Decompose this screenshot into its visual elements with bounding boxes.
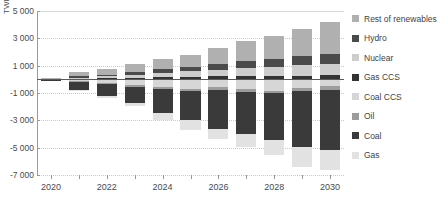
y-axis-tick-label: 1 000	[0, 61, 34, 71]
y-axis-tick-mark	[37, 93, 40, 94]
legend-item-label: Oil	[364, 112, 374, 121]
y-axis-tick-label: 3 000	[0, 33, 34, 43]
x-axis-tick-label: 2028	[264, 182, 284, 192]
legend-swatch-icon	[352, 54, 359, 61]
x-axis-tick-mark	[163, 175, 164, 179]
legend-swatch-icon	[352, 93, 359, 100]
legend-item[interactable]: Coal CCS	[352, 87, 446, 107]
legend-item-label: Coal	[364, 132, 381, 141]
legend-swatch-icon	[352, 113, 359, 120]
legend-item[interactable]: Gas	[352, 146, 446, 166]
y-axis-tick-label: 5 000	[0, 6, 34, 16]
legend-swatch-icon	[352, 152, 359, 159]
legend-swatch-icon	[352, 35, 359, 42]
x-axis-tick-label: 2026	[208, 182, 228, 192]
x-axis-tick-label: 2020	[41, 182, 61, 192]
y-axis-tick-mark	[37, 66, 40, 67]
stacked-bar-chart: TWh 5 0003 0001 000-1 000-3 000-5 000-7 …	[0, 0, 448, 206]
legend-item[interactable]: Coal	[352, 126, 446, 146]
y-axis-tick-label: -1 000	[0, 88, 34, 98]
y-axis-tick-mark	[37, 11, 40, 12]
x-axis-tick-label: 2024	[153, 182, 173, 192]
x-axis-tick-mark	[107, 175, 108, 179]
legend-item[interactable]: Rest of renewables	[352, 9, 446, 29]
chart-legend: Rest of renewablesHydroNuclearGas CCSCoa…	[352, 9, 446, 165]
y-axis-tick-label: -7 000	[0, 170, 34, 180]
zero-line-layer	[37, 11, 344, 175]
legend-swatch-icon	[352, 74, 359, 81]
legend-item[interactable]: Oil	[352, 107, 446, 127]
zero-line	[37, 79, 344, 80]
legend-item-label: Coal CCS	[364, 93, 402, 102]
x-axis-tick-mark	[302, 175, 303, 179]
legend-item-label: Gas CCS	[364, 73, 400, 82]
x-axis-tick-mark	[330, 175, 331, 179]
y-axis-tick-label: -3 000	[0, 115, 34, 125]
x-axis-tick-mark	[218, 175, 219, 179]
legend-item-label: Nuclear	[364, 54, 393, 63]
y-axis-tick-mark	[37, 38, 40, 39]
x-axis-ticks	[37, 175, 344, 181]
x-axis-tick-mark	[274, 175, 275, 179]
legend-item[interactable]: Hydro	[352, 29, 446, 49]
x-axis-tick-mark	[191, 175, 192, 179]
x-axis-tick-mark	[135, 175, 136, 179]
y-axis-tick-mark	[37, 175, 40, 176]
y-axis-tick-mark	[37, 148, 40, 149]
legend-item[interactable]: Gas CCS	[352, 68, 446, 88]
x-axis-tick-mark	[51, 175, 52, 179]
y-axis-tick-label: -5 000	[0, 143, 34, 153]
legend-swatch-icon	[352, 132, 359, 139]
legend-swatch-icon	[352, 15, 359, 22]
y-axis-tick-mark	[37, 120, 40, 121]
legend-item-label: Gas	[364, 151, 380, 160]
x-axis-tick-label: 2022	[97, 182, 117, 192]
legend-item[interactable]: Nuclear	[352, 48, 446, 68]
y-axis-tick-labels: 5 0003 0001 000-1 000-3 000-5 000-7 000	[0, 11, 34, 175]
x-axis-tick-mark	[79, 175, 80, 179]
legend-item-label: Rest of renewables	[364, 15, 437, 24]
plot-area	[37, 11, 344, 175]
legend-item-label: Hydro	[364, 34, 387, 43]
x-axis-tick-label: 2030	[320, 182, 340, 192]
x-axis-tick-mark	[246, 175, 247, 179]
